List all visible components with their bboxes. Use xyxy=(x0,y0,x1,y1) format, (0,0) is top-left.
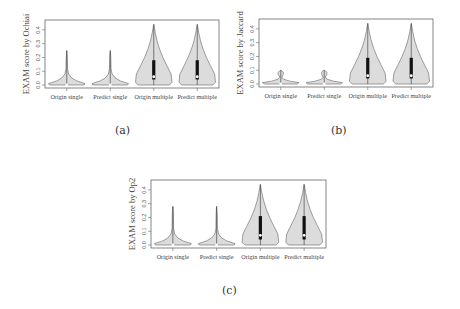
y-tick-label: 0.0 xyxy=(141,241,147,249)
x-tick-label: Predict single xyxy=(200,253,234,260)
median-marker xyxy=(65,84,68,87)
x-tick-label: Predict multiple xyxy=(284,253,324,260)
chart-panel-b: 0.00.10.20.30.4EXAM score by JaccardOrig… xyxy=(230,0,460,160)
y-tick-label: 0.1 xyxy=(35,67,41,75)
y-tick-label: 0.1 xyxy=(141,227,147,235)
y-tick-label: 0.0 xyxy=(35,81,41,89)
x-tick-label: Origin multiple xyxy=(135,93,174,100)
median-marker xyxy=(259,234,262,237)
median-marker xyxy=(196,75,199,78)
x-tick-label: Origin single xyxy=(157,253,190,260)
median-marker xyxy=(215,244,218,247)
caption-b: (b) xyxy=(331,124,347,137)
y-tick-label: 0.4 xyxy=(35,26,41,34)
y-tick-label: 0.0 xyxy=(249,80,255,88)
chart-panel-c: 0.00.10.20.30.4EXAM score by Op2Origin s… xyxy=(115,160,345,309)
y-tick-label: 0.3 xyxy=(249,39,255,47)
y-tick-label: 0.3 xyxy=(141,200,147,208)
median-marker xyxy=(171,244,174,247)
y-tick-label: 0.2 xyxy=(249,53,255,61)
x-tick-label: Predict multiple xyxy=(391,92,431,99)
median-marker xyxy=(303,234,306,237)
y-axis-label: EXAM score by Op2 xyxy=(127,178,137,250)
caption-a: (a) xyxy=(115,124,130,137)
x-tick-label: Origin single xyxy=(51,93,84,100)
caption-c: (c) xyxy=(222,284,237,297)
x-tick-label: Origin multiple xyxy=(241,253,280,260)
y-tick-label: 0.4 xyxy=(141,186,147,194)
y-tick-label: 0.4 xyxy=(249,25,255,33)
chart-panel-a: 0.00.10.20.30.4EXAM score by OchiaiOrigi… xyxy=(0,0,230,160)
y-tick-label: 0.1 xyxy=(249,66,255,74)
y-axis-label: EXAM score by Jaccard xyxy=(235,11,245,95)
x-tick-label: Predict single xyxy=(93,93,127,100)
x-tick-label: Origin single xyxy=(265,92,298,99)
x-tick-label: Predict multiple xyxy=(177,93,217,100)
y-tick-label: 0.2 xyxy=(141,214,147,222)
median-marker xyxy=(410,74,413,77)
x-tick-label: Predict single xyxy=(307,92,341,99)
y-axis-label: EXAM score by Ochiai xyxy=(21,13,31,94)
y-tick-label: 0.2 xyxy=(35,54,41,62)
median-marker xyxy=(109,84,112,87)
median-marker xyxy=(279,83,282,86)
median-marker xyxy=(152,75,155,78)
median-marker xyxy=(366,74,369,77)
x-tick-label: Origin multiple xyxy=(349,92,388,99)
y-tick-label: 0.3 xyxy=(35,40,41,48)
median-marker xyxy=(323,83,326,86)
